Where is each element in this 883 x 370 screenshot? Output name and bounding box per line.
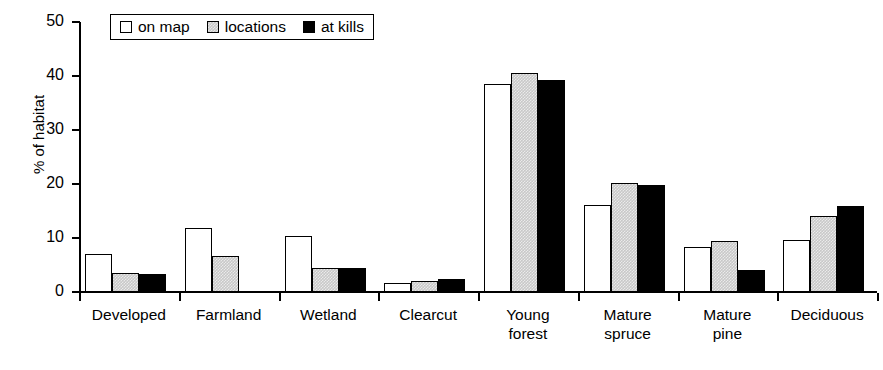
bar-locations-mature-pine <box>711 241 738 292</box>
bar-on-map-mature-pine <box>684 247 711 292</box>
x-axis-tick-mark <box>877 293 879 301</box>
x-axis-tick-mark <box>378 293 380 301</box>
bar-chart: % of habitat 01020304050 DevelopedFarmla… <box>0 0 883 370</box>
legend-swatch-icon <box>120 21 132 33</box>
x-axis-label-deciduous: Deciduous <box>777 305 877 324</box>
bar-locations-young-forest <box>511 73 538 292</box>
bar-locations-mature-spruce <box>611 183 638 292</box>
x-axis-tick-mark <box>279 293 281 301</box>
bar-on-map-deciduous <box>783 240 810 292</box>
x-axis-tick-mark <box>678 293 680 301</box>
y-axis-tick-label: 10 <box>30 229 64 245</box>
bar-on-map-developed <box>85 254 112 292</box>
bar-at-kills-clearcut <box>438 279 465 293</box>
legend-swatch-icon <box>207 21 219 33</box>
bar-at-kills-wetland <box>339 268 366 292</box>
x-axis-label-wetland: Wetland <box>279 305 379 324</box>
y-axis-tick-label: 40 <box>30 67 64 83</box>
x-axis-tick-mark <box>79 293 81 301</box>
x-axis-label-clearcut: Clearcut <box>378 305 478 324</box>
bar-on-map-mature-spruce <box>584 205 611 292</box>
bar-locations-deciduous <box>810 216 837 292</box>
legend-swatch-icon <box>303 21 315 33</box>
y-axis-tick-label: 20 <box>30 175 64 191</box>
bar-at-kills-mature-spruce <box>638 185 665 292</box>
x-axis-tick-mark <box>179 293 181 301</box>
bar-at-kills-young-forest <box>538 80 565 292</box>
bar-on-map-young-forest <box>484 84 511 292</box>
x-axis-label-farmland: Farmland <box>179 305 279 324</box>
bar-on-map-farmland <box>185 228 212 292</box>
x-axis-label-young-forest: Young forest <box>478 305 578 343</box>
y-axis-tick-label: 0 <box>30 283 64 299</box>
bar-locations-developed <box>112 273 139 292</box>
y-axis-tick-label: 50 <box>30 13 64 29</box>
x-axis-label-mature-pine: Mature pine <box>678 305 778 343</box>
legend-item-on-map: on map <box>120 19 190 35</box>
x-axis-label-mature-spruce: Mature spruce <box>578 305 678 343</box>
legend-label: locations <box>225 19 286 35</box>
chart-legend: on maplocationsat kills <box>110 14 374 40</box>
x-axis-label-developed: Developed <box>79 305 179 324</box>
y-axis-tick-label: 30 <box>30 121 64 137</box>
bar-on-map-wetland <box>285 236 312 292</box>
x-axis-tick-mark <box>478 293 480 301</box>
bar-at-kills-mature-pine <box>738 270 765 292</box>
x-axis-tick-mark <box>578 293 580 301</box>
x-axis-tick-mark <box>777 293 779 301</box>
bar-locations-farmland <box>212 256 239 292</box>
legend-item-locations: locations <box>207 19 286 35</box>
legend-label: on map <box>138 19 190 35</box>
legend-label: at kills <box>321 19 364 35</box>
plot-area <box>79 22 877 292</box>
legend-item-at-kills: at kills <box>303 19 364 35</box>
bar-at-kills-developed <box>139 274 166 292</box>
bar-at-kills-deciduous <box>837 206 864 292</box>
bar-locations-wetland <box>312 268 339 292</box>
